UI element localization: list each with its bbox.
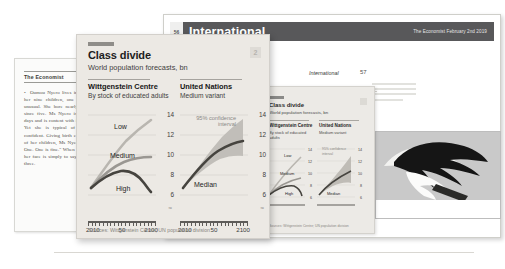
text-line [372, 99, 403, 101]
mini-chart-badge [360, 98, 367, 105]
svg-text:14: 14 [308, 148, 312, 152]
svg-text:10: 10 [308, 172, 312, 176]
spread-credit: The Economist February 2nd 2019 [413, 29, 487, 34]
x-tick-2100: 2100 [236, 226, 250, 233]
svg-text:High: High [285, 191, 293, 196]
panel-subheading: By stock of educated adults [88, 92, 174, 100]
article-illustration [375, 131, 501, 219]
y-tick-10: 10 [158, 151, 174, 158]
x-tick-50: 50 [211, 226, 218, 233]
panel-heading: Wittgenstein Centre [88, 82, 174, 91]
y-tick-10: 10 [250, 151, 266, 158]
page-bottom-rule [54, 252, 474, 253]
text-line [372, 93, 416, 95]
card-top-rule [88, 42, 114, 46]
svg-text:12: 12 [308, 160, 312, 164]
svg-text:6: 6 [310, 196, 312, 200]
chart-subtitle: World population forecasts, bn [88, 63, 188, 72]
svg-text:14: 14 [358, 148, 362, 152]
curve-medium [91, 157, 151, 188]
mini-left-heading: Wittgenstein Centre [269, 123, 312, 128]
svg-text:12: 12 [358, 160, 362, 164]
mini-folio: 57 [360, 69, 367, 75]
chart-source: Sources: Wittgenstein Centre; UN populat… [88, 227, 210, 233]
illustration-caption-strip [376, 200, 500, 218]
svg-text:Medium: Medium [280, 171, 295, 176]
panel-united-nations: United Nations Medium variant [180, 79, 266, 100]
mini-panel-rule-left [269, 120, 309, 121]
mini-chart-subtitle: World population forecasts, bn [269, 110, 328, 115]
mini-top-rule [269, 96, 284, 99]
mini-right-heading: United Nations [319, 123, 351, 128]
panel-heading: United Nations [180, 82, 266, 91]
svg-text:8: 8 [310, 184, 312, 188]
svg-text:6: 6 [360, 196, 362, 200]
chart-title: Class divide [88, 49, 151, 61]
mini-chart-source: Sources: Wittgenstein Centre; UN populat… [269, 224, 349, 228]
spread-text-block [372, 83, 416, 104]
svg-text:Low: Low [284, 153, 291, 158]
curve-label-high: High [116, 185, 130, 192]
y-axis-break-icon: ≈ [168, 204, 172, 211]
curve-label-median: Median [194, 181, 217, 188]
mini-right-sub: Medium variant [319, 130, 363, 135]
y-tick-6: 6 [250, 191, 266, 198]
panel-rule [88, 79, 150, 80]
mini-section-label: International [309, 70, 339, 76]
y-axis-break-icon: ≈ [260, 204, 264, 211]
confidence-interval-label: 95% confidence interval [188, 115, 236, 128]
panel-wittgenstein: Wittgenstein Centre By stock of educated… [88, 79, 174, 100]
plot-wittgenstein: Low Medium High 14 12 10 8 6 ≈ [88, 109, 174, 219]
curve-label-low: Low [114, 123, 127, 130]
y-tick-14: 14 [158, 111, 174, 118]
mini-plot-wittgenstein: Low Medium High 141210 86 [267, 143, 313, 209]
svg-text:10: 10 [358, 172, 362, 176]
mini-ci-label: 95% confidence interval [322, 147, 352, 157]
mini-panel-rule-right [319, 120, 359, 121]
text-line [372, 83, 416, 85]
y-tick-6: 6 [158, 191, 174, 198]
mini-chart-card: Class divide World population forecasts,… [259, 86, 375, 234]
chart-number-badge: 2 [250, 47, 261, 58]
y-tick-8: 8 [250, 171, 266, 178]
y-tick-14: 14 [250, 111, 266, 118]
plot-united-nations: 95% confidence interval Median 14 12 10 … [180, 109, 266, 219]
mini-chart-title: Class divide [269, 102, 304, 108]
curve-label-medium: Medium [110, 152, 135, 159]
main-chart-card: 2 Class divide World population forecast… [76, 34, 270, 239]
y-tick-8: 8 [158, 171, 174, 178]
y-tick-12: 12 [158, 131, 174, 138]
screenshot-stage: The Economist •Oumou Nyero lives in a ru… [0, 0, 505, 269]
svg-text:8: 8 [360, 184, 362, 188]
panel-subheading: Medium variant [180, 92, 266, 100]
panel-rule [180, 79, 242, 80]
svg-text:Median: Median [327, 191, 340, 196]
y-tick-12: 12 [250, 131, 266, 138]
text-line [372, 88, 416, 90]
mini-left-sub: By stock of educated adults [269, 130, 313, 140]
